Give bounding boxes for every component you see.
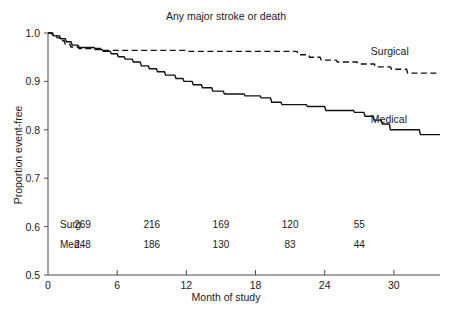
y-tick-label: 1.0	[25, 27, 40, 39]
axis-titles: Month of study Proportion event-free	[12, 106, 261, 303]
y-tick-label: 0.9	[25, 75, 40, 87]
x-axis-ticks: 0612182430	[45, 270, 400, 291]
y-axis-ticks: 0.50.60.70.80.91.0	[25, 27, 48, 281]
chart-canvas: Any major stroke or death 0.50.60.70.80.…	[0, 0, 452, 310]
x-tick-label: 12	[181, 279, 193, 291]
risk-value: 83	[285, 239, 297, 250]
risk-value: 269	[74, 219, 91, 230]
risk-value: 130	[213, 239, 230, 250]
y-axis-title: Proportion event-free	[12, 106, 24, 205]
series-labels: SurgicalMedical	[371, 45, 409, 125]
risk-value: 248	[74, 239, 91, 250]
y-tick-label: 0.8	[25, 124, 40, 136]
y-tick-label: 0.7	[25, 172, 40, 184]
x-axis-title: Month of study	[192, 291, 262, 303]
x-tick-label: 6	[114, 279, 120, 291]
x-tick-label: 0	[45, 279, 51, 291]
risk-value: 44	[354, 239, 366, 250]
axes-group	[48, 33, 440, 275]
risk-value: 169	[213, 219, 230, 230]
survival-chart: Any major stroke or death 0.50.60.70.80.…	[0, 0, 452, 310]
series-label-medical: Medical	[371, 113, 407, 125]
risk-table: Surg.26921616912055Med.2481861308344	[60, 219, 365, 250]
y-tick-label: 0.5	[25, 269, 40, 281]
risk-value: 55	[354, 219, 366, 230]
chart-title-group: Any major stroke or death	[166, 10, 286, 22]
risk-value: 186	[143, 239, 160, 250]
y-tick-label: 0.6	[25, 221, 40, 233]
x-tick-label: 18	[250, 279, 262, 291]
risk-value: 120	[282, 219, 299, 230]
risk-value: 216	[143, 219, 160, 230]
x-tick-label: 30	[388, 279, 400, 291]
x-tick-label: 24	[319, 279, 331, 291]
series-label-surgical: Surgical	[371, 45, 409, 57]
chart-title: Any major stroke or death	[166, 10, 286, 22]
